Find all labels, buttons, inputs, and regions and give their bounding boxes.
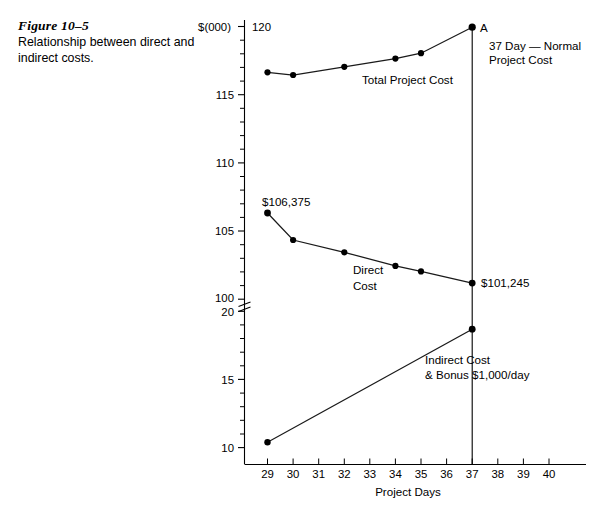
x-tick-label-33: 33 bbox=[363, 468, 376, 480]
x-tick-label-39: 39 bbox=[517, 468, 530, 480]
normal-project-cost-annotation: 37 Day — Normal Project Cost bbox=[489, 39, 581, 66]
indirect-cost-line1: Indirect Cost bbox=[425, 353, 491, 366]
y-tick-label-105: 105 bbox=[215, 225, 234, 237]
data-point bbox=[418, 268, 424, 274]
data-point bbox=[264, 210, 271, 217]
data-point bbox=[264, 69, 270, 75]
x-axis-ticks bbox=[268, 459, 550, 465]
indirect-cost-line2: & Bonus $1,000/day bbox=[425, 368, 530, 381]
cost-chart: 120 115 110 105 100 20 15 10 $(000) bbox=[0, 0, 600, 514]
data-point bbox=[392, 56, 398, 62]
data-point bbox=[341, 64, 347, 70]
data-point-a bbox=[469, 24, 476, 31]
data-point bbox=[469, 326, 476, 333]
y-tick-label-115: 115 bbox=[216, 89, 234, 101]
x-tick-label-29: 29 bbox=[261, 468, 274, 480]
series-total-project-cost bbox=[264, 24, 475, 79]
direct-cost-label: Direct Cost bbox=[353, 263, 384, 292]
x-axis-title: Project Days bbox=[375, 485, 441, 498]
y-tick-label-120: 120 bbox=[252, 21, 271, 33]
direct-cost-start-value: $106,375 bbox=[262, 195, 310, 208]
direct-cost-end-value: $101,245 bbox=[481, 276, 529, 289]
x-tick-label-32: 32 bbox=[338, 468, 351, 480]
y-tick-label-10: 10 bbox=[221, 442, 234, 454]
normal-project-cost-line1: 37 Day — Normal bbox=[489, 39, 581, 52]
data-point bbox=[341, 249, 347, 255]
data-point bbox=[264, 439, 270, 445]
x-tick-label-34: 34 bbox=[389, 468, 402, 480]
direct-cost-line1: Direct bbox=[353, 263, 384, 276]
x-tick-label-35: 35 bbox=[415, 468, 428, 480]
y-tick-label-110: 110 bbox=[216, 157, 234, 169]
y-axis-tick-labels: 120 115 110 105 100 20 15 10 bbox=[215, 21, 271, 454]
figure-root: Figure 10–5 Relationship between direct … bbox=[0, 0, 600, 514]
indirect-cost-label: Indirect Cost & Bonus $1,000/day bbox=[425, 353, 530, 381]
y-tick-label-15: 15 bbox=[221, 374, 234, 386]
y-axis-ticks-upper bbox=[238, 27, 245, 300]
x-tick-label-37: 37 bbox=[466, 468, 479, 480]
x-tick-label-30: 30 bbox=[287, 468, 300, 480]
data-point bbox=[392, 263, 398, 269]
y-axis-unit-label: $(000) bbox=[198, 21, 231, 33]
total-project-cost-label: Total Project Cost bbox=[362, 73, 454, 86]
y-axis-ticks-lower bbox=[238, 311, 245, 447]
direct-cost-line2: Cost bbox=[353, 279, 378, 292]
x-tick-label-40: 40 bbox=[543, 468, 556, 480]
normal-project-cost-line2: Project Cost bbox=[489, 53, 553, 66]
data-point bbox=[290, 72, 296, 78]
y-tick-label-100: 100 bbox=[215, 292, 234, 304]
point-a-label: A bbox=[480, 21, 488, 34]
series-indirect-cost bbox=[264, 326, 475, 446]
data-point bbox=[418, 50, 424, 56]
x-tick-label-31: 31 bbox=[312, 468, 325, 480]
x-axis-tick-labels: 29 30 31 32 33 34 35 36 37 38 39 40 bbox=[261, 468, 555, 480]
x-tick-label-38: 38 bbox=[491, 468, 504, 480]
x-tick-label-36: 36 bbox=[440, 468, 453, 480]
y-tick-label-20: 20 bbox=[221, 306, 234, 318]
data-point bbox=[290, 237, 296, 243]
data-point bbox=[469, 280, 476, 287]
